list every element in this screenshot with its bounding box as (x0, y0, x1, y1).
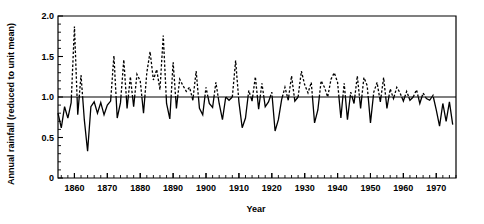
series-segment-below-mean (83, 97, 111, 151)
series-segment-above-mean (355, 76, 360, 97)
series-segment-below-mean (294, 97, 298, 101)
series-segment-below-mean (142, 97, 145, 113)
series-segment-above-mean (381, 78, 386, 97)
series-segment-above-mean (135, 74, 142, 97)
series-segment-below-mean (272, 97, 282, 131)
x-tick-label: 1960 (393, 183, 413, 193)
series-segment-above-mean (298, 71, 312, 97)
x-tick-label: 1900 (196, 183, 216, 193)
series-segment-below-mean (133, 97, 135, 107)
x-tick-label: 1920 (262, 183, 282, 193)
series-segment-above-mean (373, 82, 379, 97)
y-tick-label: 0 (49, 173, 54, 183)
x-tick-label: 1890 (163, 183, 183, 193)
x-tick-label: 1880 (130, 183, 150, 193)
series-segment-below-mean (166, 97, 171, 119)
series-segment-above-mean (145, 35, 166, 97)
series-segment-above-mean (319, 73, 339, 97)
series-segment-below-mean (386, 97, 389, 108)
series-segment-below-mean (176, 97, 178, 108)
y-axis-tick-labels: 00.51.01.52.0 (41, 11, 54, 183)
series-segment-below-mean (198, 97, 204, 115)
x-tick-label: 1930 (295, 183, 315, 193)
series-segment-above-mean (343, 83, 346, 97)
series-segment-below-mean (402, 97, 405, 101)
series-segment-below-mean (126, 97, 128, 108)
series-segment-below-mean (257, 97, 260, 109)
series-segment-above-mean (289, 76, 295, 97)
series-segment-above-mean (171, 62, 176, 97)
x-tick-label: 1940 (328, 183, 348, 193)
series-segment-below-mean (312, 97, 319, 123)
y-axis-title: Annual rainfall (reduced to unit mean) (6, 23, 16, 185)
series-segment-above-mean (71, 27, 77, 97)
series-segment-below-mean (116, 97, 121, 118)
rainfall-time-series-chart: 00.51.01.52.0 18601870188018901900191019… (0, 0, 484, 224)
series-segment-above-mean (422, 93, 426, 97)
series-segment-above-mean (111, 56, 116, 97)
series-segment-above-mean (214, 82, 218, 97)
series-segment-above-mean (260, 83, 264, 97)
series-segment-below-mean (77, 97, 79, 115)
series-segment-below-mean (418, 97, 422, 103)
series-segment-above-mean (362, 78, 368, 97)
series-segment-below-mean (433, 97, 452, 126)
x-tick-label: 1870 (97, 183, 117, 193)
x-tick-label: 1950 (360, 183, 380, 193)
series-segment-above-mean (79, 75, 82, 97)
series-segment-above-mean (270, 92, 272, 97)
series-segment-below-mean (339, 97, 343, 118)
series-segment-above-mean (405, 91, 409, 97)
rainfall-series (58, 27, 453, 152)
series-segment-below-mean (251, 97, 253, 101)
series-segment-below-mean (352, 97, 355, 103)
x-tick-label: 1910 (229, 183, 249, 193)
series-segment-below-mean (208, 97, 214, 108)
series-segment-above-mean (282, 87, 287, 97)
x-axis-title: Year (246, 204, 266, 214)
series-segment-above-mean (253, 77, 258, 97)
series-segment-below-mean (58, 97, 71, 128)
series-segment-above-mean (350, 92, 352, 97)
series-segment-above-mean (178, 79, 192, 97)
series-segment-above-mean (193, 71, 198, 97)
y-tick-label: 1.0 (41, 92, 54, 102)
y-tick-label: 0.5 (41, 133, 54, 143)
series-segment-below-mean (192, 97, 193, 100)
series-segment-below-mean (359, 97, 361, 108)
series-segment-above-mean (205, 87, 208, 97)
series-segment-below-mean (393, 97, 394, 99)
x-tick-label: 1860 (64, 183, 84, 193)
y-tick-label: 1.5 (41, 52, 54, 62)
y-tick-label: 2.0 (41, 11, 54, 21)
x-tick-label: 1970 (426, 183, 446, 193)
series-segment-below-mean (368, 97, 373, 123)
x-axis-ticks (61, 173, 456, 178)
series-segment-below-mean (239, 97, 248, 128)
series-segment-above-mean (128, 77, 132, 97)
series-segment-above-mean (389, 89, 393, 97)
series-segment-above-mean (413, 90, 418, 97)
series-segment-below-mean (380, 97, 381, 102)
series-segment-below-mean (345, 97, 350, 120)
series-segment-below-mean (264, 97, 270, 107)
x-axis-tick-labels: 1860187018801890190019101920193019401950… (64, 183, 446, 193)
series-segment-below-mean (218, 97, 226, 120)
series-segment-above-mean (394, 87, 402, 97)
series-segment-above-mean (248, 91, 251, 97)
series-segment-above-mean (232, 61, 238, 97)
series-segment-above-mean (121, 60, 126, 97)
series-segment-below-mean (287, 97, 288, 100)
